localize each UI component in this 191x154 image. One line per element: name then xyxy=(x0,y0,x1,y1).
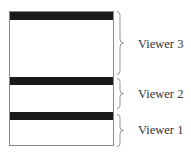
viewer-3-content xyxy=(10,20,113,78)
viewer-1-title-bar xyxy=(10,112,113,120)
viewer-2-content xyxy=(10,85,113,112)
viewer-stack xyxy=(9,11,114,146)
viewer-2-title-bar xyxy=(10,77,113,85)
viewer-2-brace-icon xyxy=(117,78,125,109)
viewer-3-label: Viewer 3 xyxy=(138,38,183,50)
viewer-3-title-bar xyxy=(10,12,113,20)
viewer-1-brace-icon xyxy=(117,114,125,147)
viewer-1-content xyxy=(10,120,113,146)
viewer-1-label: Viewer 1 xyxy=(138,124,183,136)
viewer-3-brace-icon xyxy=(117,11,125,75)
viewer-2-label: Viewer 2 xyxy=(138,88,183,100)
